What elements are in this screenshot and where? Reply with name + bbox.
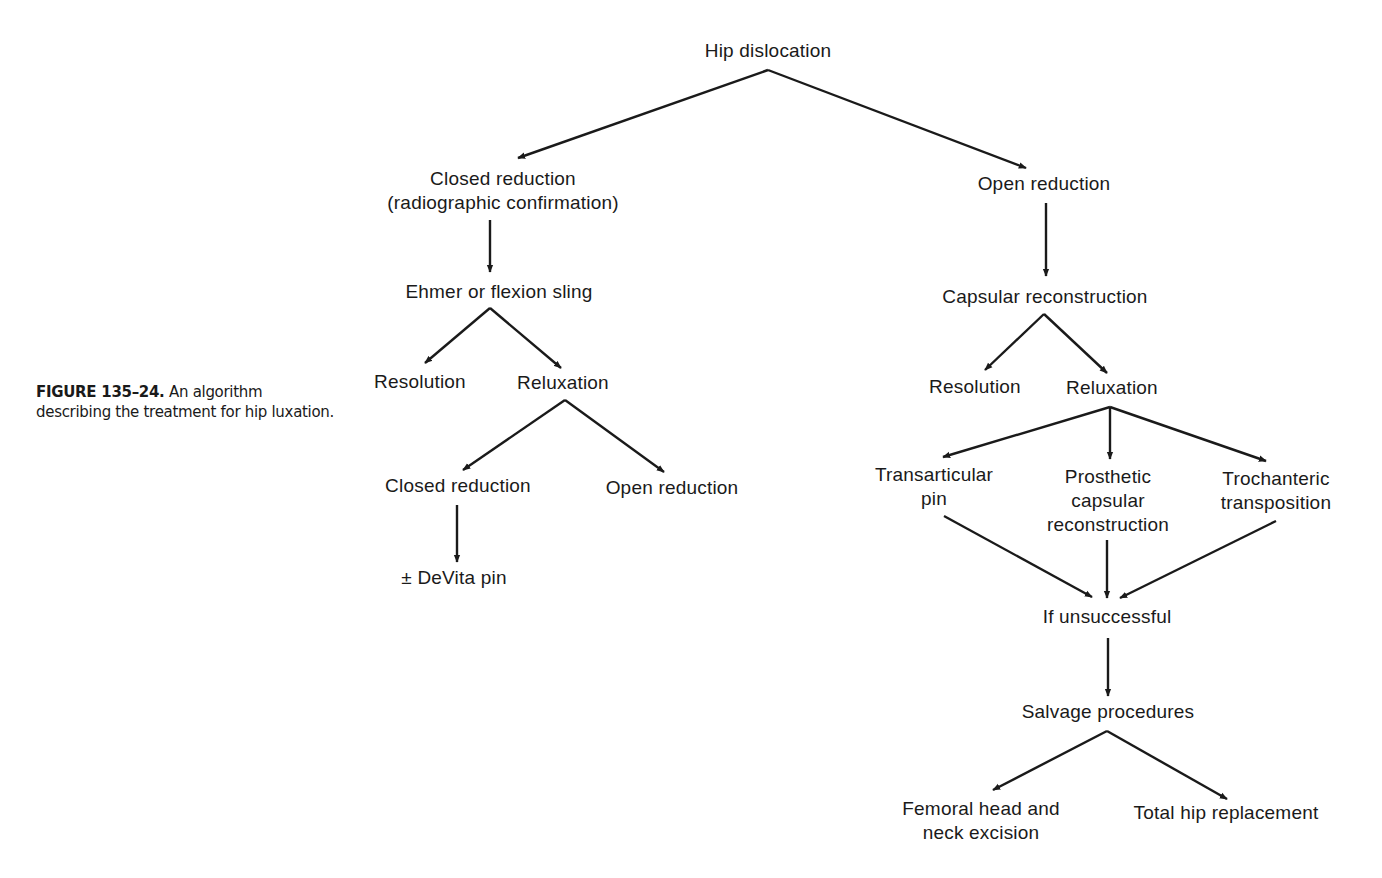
edge-ehmer-resolution [425, 308, 490, 363]
flowchart-edges [0, 0, 1382, 878]
edge-capsular-reluxation [1044, 314, 1107, 373]
edge-capsular-resolution [985, 314, 1044, 370]
edge-ehmer-reluxation [490, 308, 561, 368]
node-transarticular-pin: Transarticular pin [875, 463, 993, 511]
node-right-reluxation: Reluxation [1066, 376, 1158, 400]
node-line: Closed reduction [387, 167, 618, 191]
node-total-hip-replacement: Total hip replacement [1134, 801, 1319, 825]
node-line: neck excision [902, 821, 1059, 845]
node-left-resolution: Resolution [374, 370, 466, 394]
node-closed-reduction-radiographic: Closed reduction (radiographic confirmat… [387, 167, 618, 215]
node-ehmer-sling: Ehmer or flexion sling [405, 280, 592, 304]
node-right-resolution: Resolution [929, 375, 1021, 399]
node-line: Trochanteric [1221, 467, 1331, 491]
node-line: transposition [1221, 491, 1331, 515]
edge-reluxation-trochanteric [1110, 407, 1266, 461]
node-line: Transarticular [875, 463, 993, 487]
node-trochanteric-transposition: Trochanteric transposition [1221, 467, 1331, 515]
node-line: Femoral head and [902, 797, 1059, 821]
node-if-unsuccessful: If unsuccessful [1043, 605, 1172, 629]
node-line: pin [875, 487, 993, 511]
edge-salvage-femoral [993, 731, 1107, 790]
node-open-reduction: Open reduction [978, 172, 1111, 196]
edge-salvage-total [1107, 731, 1227, 799]
node-left-closed-reduction: Closed reduction [385, 474, 531, 498]
node-line: reconstruction [1047, 513, 1169, 537]
node-salvage-procedures: Salvage procedures [1022, 700, 1195, 724]
node-capsular-reconstruction: Capsular reconstruction [942, 285, 1147, 309]
node-line: Prosthetic [1047, 465, 1169, 489]
edge-reluxation-closed [463, 400, 565, 470]
node-line: capsular [1047, 489, 1169, 513]
edge-reluxation-open [565, 400, 664, 472]
edge-root-open [768, 70, 1026, 168]
node-left-open-reduction: Open reduction [606, 476, 739, 500]
edge-root-closed [518, 70, 768, 158]
edge-reluxation-transarticular [943, 407, 1110, 457]
node-devita-pin: ± DeVita pin [401, 566, 506, 590]
node-hip-dislocation: Hip dislocation [705, 39, 832, 63]
node-femoral-head-neck-excision: Femoral head and neck excision [902, 797, 1059, 845]
node-left-reluxation: Reluxation [517, 371, 609, 395]
node-line: (radiographic confirmation) [387, 191, 618, 215]
node-prosthetic-capsular-reconstruction: Prosthetic capsular reconstruction [1047, 465, 1169, 537]
